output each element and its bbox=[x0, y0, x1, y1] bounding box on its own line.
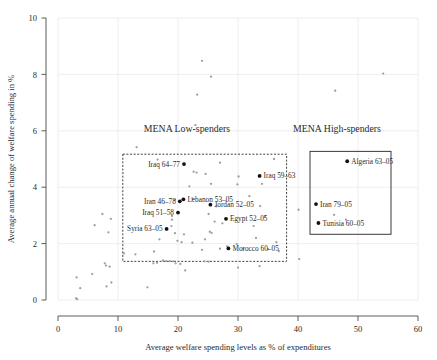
scatter-point bbox=[273, 158, 275, 160]
scatter-point bbox=[101, 213, 103, 215]
highlighted-point-marker bbox=[224, 217, 228, 221]
scatter-point bbox=[104, 262, 106, 264]
point-label: Iraq 59–63 bbox=[264, 171, 296, 180]
group-title: MENA High-spenders bbox=[293, 123, 381, 134]
scatter-point bbox=[171, 218, 173, 220]
group-title: MENA Low-spenders bbox=[144, 123, 230, 134]
scatter-point bbox=[333, 214, 335, 216]
scatter-point bbox=[158, 238, 160, 240]
highlighted-point-marker bbox=[227, 246, 231, 250]
point-label: Iran 79–05 bbox=[320, 200, 352, 209]
scatter-point bbox=[135, 146, 137, 148]
scatter-point bbox=[219, 248, 221, 250]
scatter-point bbox=[203, 260, 205, 262]
highlighted-point-marker bbox=[345, 159, 349, 163]
labeled-point: Iran 46–78 bbox=[144, 197, 182, 206]
x-tick-label-50: 50 bbox=[354, 324, 363, 334]
scatter-point bbox=[183, 233, 185, 235]
x-tick-label-60: 60 bbox=[414, 324, 423, 334]
y-axis-title: Average annual change of welfare spendin… bbox=[6, 75, 16, 244]
scatter-point bbox=[76, 298, 78, 300]
scatter-point bbox=[162, 259, 164, 261]
y-tick-label-2: 2 bbox=[33, 239, 37, 249]
x-tick-label-0: 0 bbox=[56, 324, 60, 334]
highlighted-point-marker bbox=[182, 197, 186, 201]
scatter-point bbox=[255, 237, 257, 239]
highlighted-point-marker bbox=[178, 199, 182, 203]
highlighted-point-marker bbox=[182, 162, 186, 166]
scatter-point bbox=[201, 60, 203, 62]
point-label: Iraq 51–58 bbox=[142, 208, 174, 217]
x-tick-label-40: 40 bbox=[294, 324, 303, 334]
scatter-point bbox=[221, 222, 223, 224]
highlighted-point-marker bbox=[258, 174, 262, 178]
scatter-point bbox=[174, 232, 176, 234]
highlighted-point-marker bbox=[176, 211, 180, 215]
scatter-point bbox=[334, 90, 336, 92]
highlighted-point-marker bbox=[209, 203, 213, 207]
scatter-point bbox=[153, 250, 155, 252]
scatter-point bbox=[210, 232, 212, 234]
scatter-chart-figure: 10 8 6 4 2 0 0 10 20 30 40 50 60 Average… bbox=[0, 0, 437, 360]
x-tick-label-20: 20 bbox=[174, 324, 183, 334]
scatter-point bbox=[110, 218, 112, 220]
point-label: Morocco 60–05 bbox=[232, 244, 279, 253]
point-label: Egypt 52–05 bbox=[230, 214, 268, 223]
scatter-point bbox=[196, 94, 198, 96]
scatter-point bbox=[261, 183, 263, 185]
labeled-point: Syria 63–05 bbox=[127, 224, 168, 233]
labeled-point: Jordan 52–05 bbox=[209, 200, 255, 209]
point-label: Syria 63–05 bbox=[127, 224, 163, 233]
labeled-point: Iraq 59–63 bbox=[258, 171, 296, 180]
scatter-point bbox=[191, 242, 193, 244]
scatter-point bbox=[210, 76, 212, 78]
scatter-point bbox=[236, 183, 238, 185]
chart-svg: 10 8 6 4 2 0 0 10 20 30 40 50 60 Average… bbox=[0, 0, 437, 360]
highlighted-point-marker bbox=[314, 202, 318, 206]
point-label: Iraq 64–77 bbox=[148, 160, 180, 169]
scatter-point bbox=[258, 265, 260, 267]
highlighted-point-marker bbox=[165, 227, 169, 231]
x-tick-label-10: 10 bbox=[114, 324, 123, 334]
scatter-point bbox=[180, 241, 182, 243]
scatter-point bbox=[207, 260, 209, 262]
labeled-point: Iraq 64–77 bbox=[148, 160, 186, 169]
scatter-point bbox=[75, 276, 77, 278]
scatter-point bbox=[91, 273, 93, 275]
data-points bbox=[75, 60, 385, 301]
point-label: Tunisia 60–05 bbox=[322, 219, 364, 228]
scatter-point bbox=[195, 171, 197, 173]
x-tick-label-30: 30 bbox=[234, 324, 243, 334]
y-tick-label-4: 4 bbox=[33, 182, 38, 192]
labeled-point: Algeria 63–05 bbox=[345, 157, 393, 166]
labeled-point: Morocco 60–05 bbox=[227, 244, 280, 253]
scatter-point bbox=[237, 175, 239, 177]
scatter-point bbox=[188, 185, 190, 187]
scatter-point bbox=[146, 286, 148, 288]
x-axis-title: Average welfare spending levels as % of … bbox=[145, 342, 331, 352]
group-titles: MENA Low-spendersMENA High-spenders bbox=[144, 123, 381, 134]
scatter-point bbox=[184, 269, 186, 271]
scatter-point bbox=[172, 260, 174, 262]
scatter-point bbox=[298, 258, 300, 260]
scatter-point bbox=[252, 225, 254, 227]
scatter-point bbox=[93, 224, 95, 226]
scatter-point bbox=[123, 252, 125, 254]
scatter-point bbox=[207, 213, 209, 215]
scatter-point bbox=[79, 287, 81, 289]
scatter-point bbox=[201, 249, 203, 251]
y-axis: 10 8 6 4 2 0 bbox=[29, 13, 47, 305]
scatter-point bbox=[259, 205, 261, 207]
scatter-point bbox=[204, 173, 206, 175]
scatter-point bbox=[152, 262, 154, 264]
y-tick-label-8: 8 bbox=[33, 70, 37, 80]
scatter-point bbox=[237, 266, 239, 268]
y-tick-label-10: 10 bbox=[29, 13, 38, 23]
labeled-point: Egypt 52–05 bbox=[224, 214, 268, 223]
scatter-point bbox=[179, 263, 181, 265]
scatter-point bbox=[192, 171, 194, 173]
scatter-point bbox=[165, 260, 167, 262]
scatter-point bbox=[248, 195, 250, 197]
scatter-point bbox=[105, 264, 107, 266]
scatter-point bbox=[122, 172, 124, 174]
